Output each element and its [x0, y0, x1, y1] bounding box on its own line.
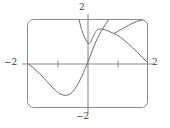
- graph-figure: 2 −2 −2 2: [0, 0, 170, 128]
- x-axis-min-label: −2: [4, 58, 17, 67]
- y-axis-min-label: −2: [76, 112, 89, 121]
- x-axis-max-label: 2: [152, 58, 158, 67]
- plot-canvas: [0, 0, 170, 128]
- y-axis-max-label: 2: [79, 3, 85, 12]
